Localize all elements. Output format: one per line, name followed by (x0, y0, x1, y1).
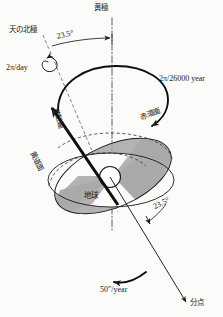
label-equinox-point: 分点 (190, 299, 204, 307)
label-ecliptic-pole: 黄極 (94, 4, 108, 12)
label-precession-rate: 2π/26000 year (159, 75, 205, 83)
precession-diagram: 黄極 天の北極 23.5° 2π/day 2π/26000 year 赤道面 黄… (0, 0, 223, 317)
label-celestial-north-pole: 天の北極 (9, 26, 37, 34)
equinox-drift-arrow (114, 272, 146, 283)
label-earth: 地球 (84, 192, 98, 200)
spin-loop-arrow (42, 57, 57, 71)
label-equinox-drift: 50″/year (100, 286, 127, 294)
label-spin-rate: 2π/day (6, 64, 28, 72)
